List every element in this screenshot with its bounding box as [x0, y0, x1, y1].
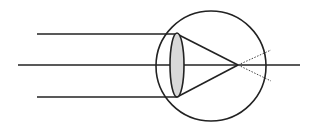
- refracted-ray-2: [177, 65, 238, 97]
- eye-lens: [170, 33, 184, 97]
- hyperopia-eye-diagram: [0, 0, 315, 128]
- refracted-ray-1: [177, 34, 238, 65]
